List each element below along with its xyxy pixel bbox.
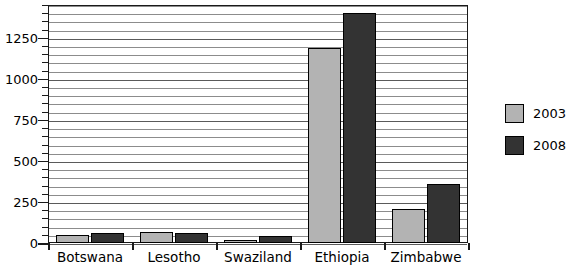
bar-ethiopia-2008	[343, 13, 376, 243]
y-axis-tick	[42, 235, 48, 236]
y-axis-tick	[42, 5, 48, 6]
y-axis-tick	[42, 153, 48, 154]
y-axis-tick	[42, 62, 48, 63]
y-axis-tick	[42, 210, 48, 211]
x-axis: BotswanaLesothoSwazilandEthiopiaZimbabwe	[48, 243, 468, 269]
y-axis-tick	[42, 227, 48, 228]
x-axis-tick	[216, 243, 218, 250]
x-axis-label-zimbabwe: Zimbabwe	[391, 249, 462, 265]
legend-label-2008: 2008	[533, 138, 566, 153]
y-axis-tick	[38, 161, 48, 163]
bar-zimbabwe-2008	[427, 184, 460, 243]
x-axis-label-swaziland: Swaziland	[224, 249, 292, 265]
y-axis-tick	[38, 202, 48, 204]
bar-botswana-2003	[56, 235, 89, 243]
y-axis-tick	[42, 145, 48, 146]
y-axis-tick	[42, 30, 48, 31]
x-axis-tick	[468, 243, 470, 250]
y-axis-tick-label: 750	[13, 112, 38, 127]
bar-botswana-2008	[91, 233, 124, 243]
x-axis-label-botswana: Botswana	[57, 249, 123, 265]
x-axis-label-lesotho: Lesotho	[148, 249, 201, 265]
y-axis-tick	[42, 54, 48, 55]
y-axis-tick	[38, 38, 48, 40]
y-axis-tick	[42, 186, 48, 187]
y-axis-tick	[42, 136, 48, 137]
y-axis: 025050075010001250	[0, 0, 48, 269]
x-axis-tick	[132, 243, 134, 250]
y-axis-tick	[38, 243, 48, 245]
bar-ethiopia-2003	[308, 48, 341, 243]
bar-lesotho-2003	[140, 232, 173, 243]
y-axis-tick	[42, 46, 48, 47]
y-axis-tick	[42, 112, 48, 113]
legend-item-2008[interactable]: 2008	[505, 136, 558, 155]
legend-swatch-2003	[505, 104, 524, 123]
bars-layer	[48, 5, 468, 243]
y-axis-tick	[42, 169, 48, 170]
legend-item-2003[interactable]: 2003	[505, 104, 558, 123]
y-axis-tick	[42, 177, 48, 178]
y-axis-tick	[42, 13, 48, 14]
x-axis-tick	[48, 243, 50, 250]
y-axis-tick-label: 0	[30, 236, 38, 251]
legend-swatch-2008	[505, 136, 524, 155]
bar-zimbabwe-2003	[392, 209, 425, 243]
y-axis-tick	[42, 128, 48, 129]
y-axis-tick-label: 250	[13, 194, 38, 209]
x-axis-tick	[384, 243, 386, 250]
y-axis-tick	[42, 194, 48, 195]
y-axis-tick	[38, 79, 48, 81]
y-axis-tick	[42, 218, 48, 219]
y-axis-tick	[42, 103, 48, 104]
chart-legend: 20032008	[505, 104, 558, 168]
y-axis-tick	[38, 120, 48, 122]
y-axis-tick-label: 500	[13, 153, 38, 168]
y-axis-tick-label: 1250	[5, 30, 38, 45]
y-axis-tick-label: 1000	[5, 71, 38, 86]
y-axis-tick	[42, 71, 48, 72]
y-axis-tick	[42, 95, 48, 96]
x-axis-label-ethiopia: Ethiopia	[315, 249, 370, 265]
y-axis-tick	[42, 21, 48, 22]
bar-lesotho-2008	[175, 233, 208, 243]
legend-label-2003: 2003	[533, 106, 566, 121]
x-axis-tick	[300, 243, 302, 250]
y-axis-tick	[42, 87, 48, 88]
